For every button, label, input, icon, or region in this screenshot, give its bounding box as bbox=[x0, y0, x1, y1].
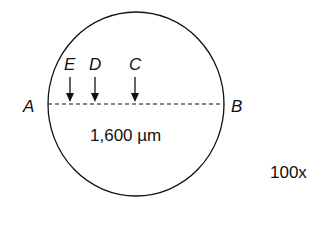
point-c-label: C bbox=[129, 56, 141, 73]
arrow-c-icon bbox=[131, 77, 139, 102]
diameter-label: 1,600 µm bbox=[90, 127, 161, 144]
point-b-label: B bbox=[231, 98, 242, 115]
point-a-label: A bbox=[23, 98, 34, 115]
arrow-e-icon bbox=[66, 77, 74, 102]
point-d-label: D bbox=[89, 56, 101, 73]
arrow-d-icon bbox=[91, 77, 99, 102]
magnification-label: 100x bbox=[270, 164, 307, 181]
point-e-label: E bbox=[64, 56, 75, 73]
